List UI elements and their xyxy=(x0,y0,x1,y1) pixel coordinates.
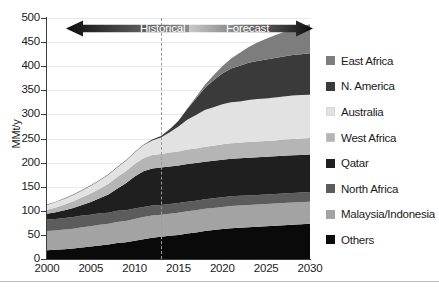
figure-caption xyxy=(2,284,439,291)
legend-item[interactable]: N. America xyxy=(326,74,438,100)
y-tick-mark xyxy=(41,163,47,164)
y-tick-mark xyxy=(41,259,47,260)
legend-label: Australia xyxy=(341,106,384,118)
y-tick-mark xyxy=(41,18,47,19)
legend-swatch-icon xyxy=(326,235,335,244)
y-tick-mark xyxy=(41,114,47,115)
legend-swatch-icon xyxy=(326,56,335,65)
legend-label: Malaysia/Indonesia xyxy=(341,208,435,220)
x-tick-label: 2000 xyxy=(27,262,67,274)
legend-swatch-icon xyxy=(326,184,335,193)
legend-label: West Africa xyxy=(341,132,396,144)
legend-swatch-icon xyxy=(326,82,335,91)
legend-swatch-icon xyxy=(326,159,335,168)
y-tick-mark xyxy=(41,139,47,140)
x-tick-label: 2005 xyxy=(71,262,111,274)
y-tick-mark xyxy=(41,42,47,43)
legend-item[interactable]: Malaysia/Indonesia xyxy=(326,202,438,228)
caption-divider xyxy=(0,281,439,282)
legend-item[interactable]: Australia xyxy=(326,99,438,125)
legend-swatch-icon xyxy=(326,107,335,116)
legend-label: East Africa xyxy=(341,55,393,67)
y-tick-mark xyxy=(41,66,47,67)
y-tick-mark xyxy=(41,90,47,91)
x-tick-label: 2020 xyxy=(202,262,242,274)
legend-label: Others xyxy=(341,234,374,246)
legend-swatch-icon xyxy=(326,133,335,142)
x-tick-label: 2030 xyxy=(290,262,330,274)
legend-item[interactable]: East Africa xyxy=(326,48,438,74)
x-tick-label: 2010 xyxy=(115,262,155,274)
y-tick-mark xyxy=(41,235,47,236)
legend-label: Qatar xyxy=(341,157,369,169)
figure-container: MMt/y 050100150200250300350400450500 xyxy=(0,0,439,291)
legend-item[interactable]: West Africa xyxy=(326,125,438,151)
y-tick-mark xyxy=(41,211,47,212)
x-tick-label: 2025 xyxy=(246,262,286,274)
legend-item[interactable]: Qatar xyxy=(326,150,438,176)
chart-legend: East AfricaN. AmericaAustraliaWest Afric… xyxy=(326,48,438,253)
y-tick-mark xyxy=(41,187,47,188)
legend-label: N. America xyxy=(341,80,395,92)
x-tick-label: 2015 xyxy=(159,262,199,274)
legend-item[interactable]: North Africa xyxy=(326,176,438,202)
legend-label: North Africa xyxy=(341,183,398,195)
legend-swatch-icon xyxy=(326,210,335,219)
legend-item[interactable]: Others xyxy=(326,227,438,253)
